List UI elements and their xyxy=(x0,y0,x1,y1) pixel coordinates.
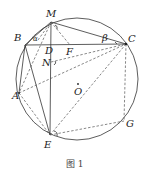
segment-bc xyxy=(25,44,126,45)
label-beta: β xyxy=(101,32,108,43)
segment-nc xyxy=(51,44,126,62)
label-e: E xyxy=(43,139,52,150)
geometry-figure: M B α D F β C N A O E G 图 1 xyxy=(0,0,150,172)
segment-mf xyxy=(51,22,70,45)
label-c: C xyxy=(128,33,136,44)
label-n: N xyxy=(41,57,52,68)
segment-mc xyxy=(51,22,126,44)
figure-caption: 图 1 xyxy=(66,159,84,169)
label-b: B xyxy=(13,32,21,43)
label-f: F xyxy=(65,46,74,57)
label-a: A xyxy=(11,90,19,101)
label-alpha: α xyxy=(33,35,38,43)
point-o xyxy=(77,83,79,85)
segment-ae xyxy=(19,93,50,135)
right-angle-mark-n xyxy=(54,61,56,65)
point-c xyxy=(125,43,128,46)
label-g: G xyxy=(126,118,134,129)
right-angle-mark-e xyxy=(54,131,57,136)
label-m: M xyxy=(45,8,57,19)
segment-cg xyxy=(124,44,126,121)
segment-bm xyxy=(25,22,51,45)
label-d: D xyxy=(44,45,53,56)
label-o: O xyxy=(74,86,82,97)
segment-ec xyxy=(50,44,126,135)
